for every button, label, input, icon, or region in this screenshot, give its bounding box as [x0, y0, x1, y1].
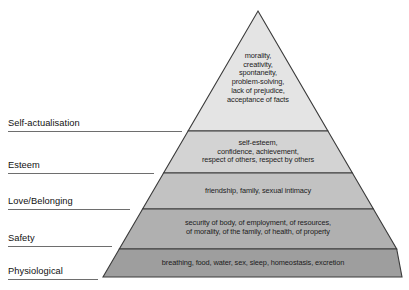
- leader-line-self-actualisation: [8, 131, 182, 132]
- pyramid-tier-esteem: [164, 131, 353, 173]
- maslow-hierarchy-diagram: morality, creativity, spontaneity, probl…: [0, 0, 409, 290]
- leader-line-safety: [8, 246, 112, 247]
- pyramid-tier-physiological: [103, 249, 402, 277]
- tier-label-safety: Safety: [8, 233, 35, 243]
- tier-label-love-belonging: Love/Belonging: [8, 196, 73, 206]
- tier-label-esteem: Esteem: [8, 160, 40, 170]
- tier-label-physiological: Physiological: [8, 266, 63, 276]
- pyramid-tier-love-belonging: [143, 173, 374, 209]
- leader-line-esteem: [8, 173, 154, 174]
- tier-label-self-actualisation: Self-actualisation: [8, 118, 80, 128]
- leader-line-love-belonging: [8, 209, 130, 210]
- leader-line-physiological: [8, 279, 98, 280]
- pyramid-tier-safety: [119, 209, 396, 249]
- pyramid-tier-self-actualisation: [188, 11, 328, 131]
